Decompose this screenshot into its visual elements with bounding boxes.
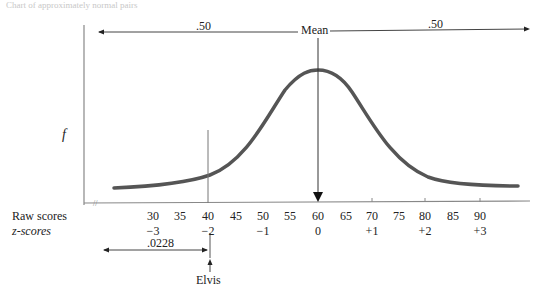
raw-score: 85 (447, 209, 459, 224)
elvis-label: Elvis (196, 273, 221, 288)
normal-curve (114, 70, 518, 188)
z-score: +2 (419, 224, 432, 239)
z-score: −2 (202, 224, 215, 239)
raw-score: 40 (202, 209, 214, 224)
tail-right-arrowhead-icon (202, 248, 208, 253)
raw-score: 45 (230, 209, 242, 224)
raw-score: 65 (340, 209, 352, 224)
raw-score: 70 (366, 209, 378, 224)
left-arrowhead-icon (98, 30, 104, 35)
raw-score: 90 (474, 209, 486, 224)
raw-score: 30 (147, 209, 159, 224)
raw-score: 50 (257, 209, 269, 224)
tail-left-arrowhead-icon (103, 248, 109, 253)
z-score: 0 (315, 224, 321, 239)
right-proportion-label: .50 (428, 17, 443, 32)
raw-score: 80 (419, 209, 431, 224)
mean-label: Mean (299, 23, 330, 38)
z-score: +1 (366, 224, 379, 239)
y-axis-label: f (62, 127, 66, 143)
z-score: −3 (147, 224, 160, 239)
left-proportion-label: .50 (196, 19, 211, 34)
normal-curve-diagram: // (0, 0, 547, 297)
raw-score: 75 (393, 209, 405, 224)
raw-score: 60 (312, 209, 324, 224)
x-axis (84, 201, 530, 203)
axis-break-icon: // (93, 199, 98, 208)
right-arrowhead-icon (524, 27, 530, 32)
mean-arrow-icon (313, 192, 323, 202)
elvis-arrowhead-icon (208, 259, 213, 265)
z-score: +3 (474, 224, 487, 239)
raw-scores-row-label: Raw scores (12, 209, 67, 224)
z-score: −1 (257, 224, 270, 239)
z-scores-row-label: z-scores (12, 224, 51, 239)
raw-score: 35 (174, 209, 186, 224)
raw-score: 55 (284, 209, 296, 224)
